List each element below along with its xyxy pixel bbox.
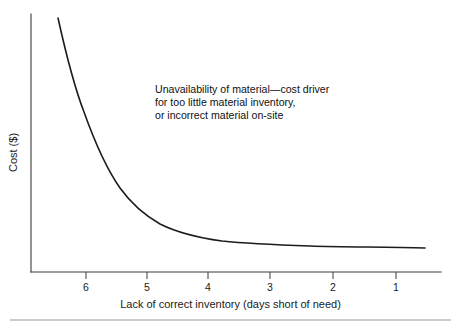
- annotation-line-1: Unavailability of material—cost driver: [155, 83, 329, 96]
- x-axis-title: Lack of correct inventory (days short of…: [0, 298, 461, 311]
- x-tick-label-2: 2: [321, 281, 345, 293]
- x-tick-label-4: 4: [196, 281, 220, 293]
- curve-annotation: Unavailability of material—cost driver f…: [155, 83, 329, 123]
- x-tick-label-6: 6: [74, 281, 98, 293]
- annotation-line-3: or incorrect material on-site: [155, 109, 329, 122]
- x-axis-ticks: [86, 272, 396, 279]
- y-axis-title: Cost ($): [7, 112, 20, 194]
- x-tick-label-5: 5: [135, 281, 159, 293]
- annotation-line-2: for too little material inventory,: [155, 96, 329, 109]
- chart-figure: 6 5 4 3 2 1 Lack of correct inventory (d…: [0, 0, 461, 330]
- x-tick-label-1: 1: [384, 281, 408, 293]
- y-axis-title-wrap: Cost ($): [2, 104, 24, 204]
- x-tick-label-3: 3: [258, 281, 282, 293]
- cost-curve: [58, 18, 425, 248]
